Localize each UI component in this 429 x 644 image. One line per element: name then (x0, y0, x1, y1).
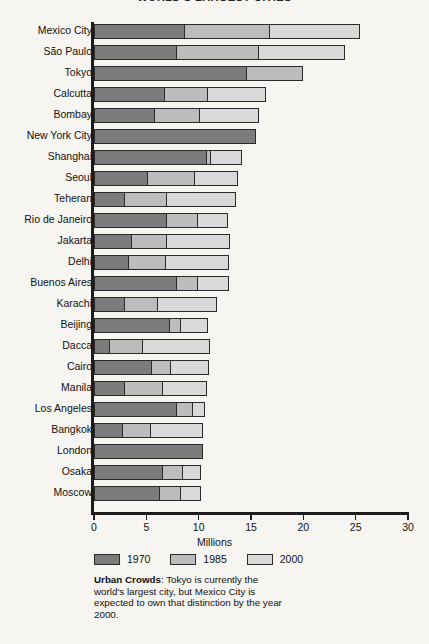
stacked-bar[interactable] (94, 150, 242, 165)
legend-item-1985[interactable]: 1985 (170, 553, 226, 565)
bar-segment-1985[interactable] (128, 255, 166, 270)
stacked-bar[interactable] (94, 129, 256, 144)
bar-segment-1985[interactable] (122, 423, 152, 438)
bar-segment-1970[interactable] (94, 423, 123, 438)
bar-segment-1970[interactable] (94, 129, 256, 144)
bar-segment-2000[interactable] (180, 318, 209, 333)
bar-segment-1970[interactable] (94, 360, 153, 375)
legend-swatch-icon (247, 554, 273, 565)
stacked-bar[interactable] (94, 45, 345, 60)
legend-label: 1985 (203, 553, 226, 565)
bar-segment-1985[interactable] (166, 213, 199, 228)
stacked-bar[interactable] (94, 276, 229, 291)
bar-segment-2000[interactable] (192, 402, 205, 417)
bar-segment-2000[interactable] (166, 234, 230, 249)
bar-segment-1985[interactable] (109, 339, 143, 354)
bar-segment-2000[interactable] (199, 108, 259, 123)
bar-segment-2000[interactable] (170, 360, 209, 375)
bar-segment-1970[interactable] (94, 150, 207, 165)
bar-segment-1970[interactable] (94, 255, 130, 270)
bar-segment-1985[interactable] (176, 45, 259, 60)
chart-row: Dacca (0, 337, 429, 358)
bar-segment-1970[interactable] (94, 45, 178, 60)
bar-segment-1985[interactable] (184, 24, 270, 39)
bar-segment-1985[interactable] (246, 66, 304, 81)
bar-segment-1970[interactable] (94, 402, 178, 417)
bar-segment-1970[interactable] (94, 486, 160, 501)
chart-row: Los Angeles (0, 400, 429, 421)
bar-segment-1970[interactable] (94, 108, 156, 123)
bar-segment-1970[interactable] (94, 234, 133, 249)
bar-segment-2000[interactable] (166, 192, 236, 207)
stacked-bar[interactable] (94, 318, 208, 333)
stacked-bar[interactable] (94, 108, 259, 123)
stacked-bar[interactable] (94, 444, 203, 459)
stacked-bar[interactable] (94, 297, 217, 312)
bar-segment-1985[interactable] (176, 276, 198, 291)
bar-segment-2000[interactable] (150, 423, 203, 438)
category-label: New York City (6, 129, 92, 142)
bar-segment-2000[interactable] (269, 24, 360, 39)
stacked-bar[interactable] (94, 192, 236, 207)
legend-item-2000[interactable]: 2000 (247, 553, 303, 565)
bar-segment-2000[interactable] (197, 276, 229, 291)
bar-segment-2000[interactable] (207, 87, 266, 102)
bar-segment-1985[interactable] (176, 402, 193, 417)
category-label: Tokyo (6, 66, 92, 79)
stacked-bar[interactable] (94, 234, 230, 249)
bar-segment-2000[interactable] (210, 150, 242, 165)
bar-segment-1970[interactable] (94, 297, 125, 312)
bar-segment-1985[interactable] (162, 465, 183, 480)
bar-segment-1970[interactable] (94, 381, 125, 396)
bar-segment-1985[interactable] (131, 234, 167, 249)
stacked-bar[interactable] (94, 213, 228, 228)
stacked-bar[interactable] (94, 171, 238, 186)
bar-segment-1970[interactable] (94, 24, 185, 39)
bar-segment-2000[interactable] (142, 339, 210, 354)
stacked-bar[interactable] (94, 339, 210, 354)
stacked-bar[interactable] (94, 255, 229, 270)
bar-segment-1970[interactable] (94, 318, 170, 333)
x-tick (146, 515, 148, 520)
bar-segment-2000[interactable] (165, 255, 229, 270)
bar-segment-1970[interactable] (94, 339, 111, 354)
stacked-bar[interactable] (94, 66, 303, 81)
stacked-bar[interactable] (94, 486, 201, 501)
bar-segment-1985[interactable] (124, 297, 158, 312)
stacked-bar[interactable] (94, 402, 205, 417)
bar-segment-2000[interactable] (194, 171, 238, 186)
bar-segment-1970[interactable] (94, 192, 125, 207)
bar-segment-2000[interactable] (182, 465, 201, 480)
bar-segment-1985[interactable] (151, 360, 171, 375)
bar-segment-1970[interactable] (94, 465, 163, 480)
bar-segment-1970[interactable] (94, 444, 203, 459)
bar-segment-2000[interactable] (197, 213, 228, 228)
bar-segment-2000[interactable] (180, 486, 201, 501)
category-label: Buenos Aires (6, 276, 92, 289)
stacked-bar[interactable] (94, 423, 203, 438)
bar-segment-2000[interactable] (162, 381, 207, 396)
bar-segment-1970[interactable] (94, 276, 178, 291)
stacked-bar[interactable] (94, 360, 209, 375)
stacked-bar[interactable] (94, 24, 360, 39)
stacked-bar[interactable] (94, 465, 201, 480)
bar-segment-1985[interactable] (124, 192, 167, 207)
bar-segment-1985[interactable] (124, 381, 163, 396)
bar-segment-1985[interactable] (154, 108, 200, 123)
stacked-bar[interactable] (94, 87, 266, 102)
chart-row: São Paulo (0, 43, 429, 64)
bar-segment-1970[interactable] (94, 171, 148, 186)
bar-segment-1970[interactable] (94, 87, 165, 102)
stacked-bar[interactable] (94, 381, 207, 396)
bar-segment-1970[interactable] (94, 213, 167, 228)
bar-segment-1985[interactable] (147, 171, 195, 186)
chart-row: Rio de Janeiro (0, 211, 429, 232)
chart-row: Osaka (0, 463, 429, 484)
bar-segment-2000[interactable] (258, 45, 345, 60)
bar-segment-1970[interactable] (94, 66, 247, 81)
legend-item-1970[interactable]: 1970 (94, 553, 150, 565)
bar-segment-2000[interactable] (157, 297, 218, 312)
chart-row: Karachi (0, 295, 429, 316)
bar-segment-1985[interactable] (159, 486, 181, 501)
bar-segment-1985[interactable] (164, 87, 208, 102)
